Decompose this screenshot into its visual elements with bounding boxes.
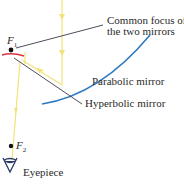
parabolic-mirror-label: Parabolic mirror bbox=[92, 76, 164, 87]
focus-point-f2 bbox=[9, 144, 13, 148]
hyperbolic-mirror bbox=[2, 54, 24, 56]
parabolic-mirror bbox=[42, 35, 150, 104]
eyepiece-label: Eyepiece bbox=[23, 167, 63, 178]
leader-hyperbolic bbox=[14, 58, 82, 104]
eyepiece-icon bbox=[3, 158, 17, 172]
hyperbolic-mirror-label: Hyperbolic mirror bbox=[85, 98, 165, 109]
incoming-rays bbox=[25, 0, 62, 85]
common-focus-label: Common focus of the two mirrors bbox=[107, 15, 184, 37]
leader-common-focus bbox=[16, 25, 103, 48]
f2-label: F2 bbox=[16, 139, 26, 154]
cassegrain-diagram: F1 F2 Common focus of the two mirrors Pa… bbox=[0, 0, 184, 186]
f1-label: F1 bbox=[7, 34, 17, 49]
ray-arrow-icons bbox=[14, 14, 65, 114]
